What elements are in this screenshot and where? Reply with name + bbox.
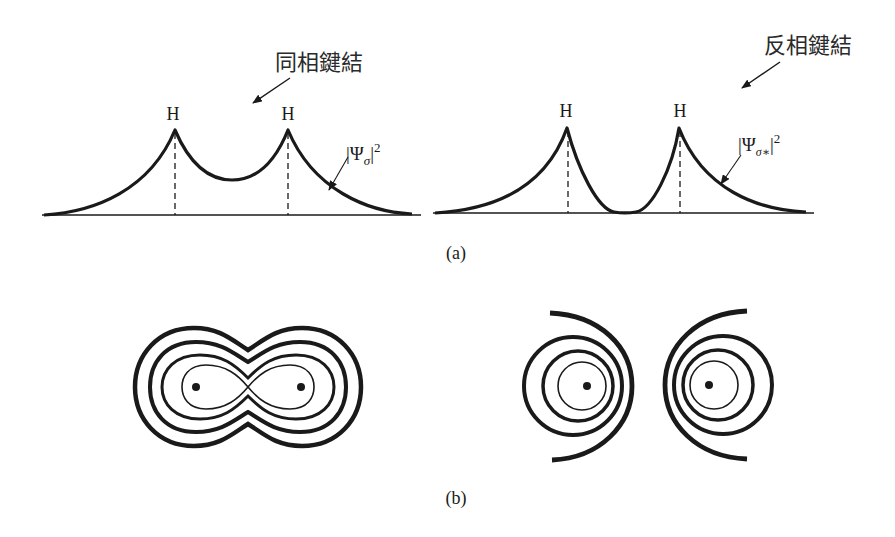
anti-nucleus-dot-left bbox=[583, 382, 591, 390]
caption-b: (b) bbox=[446, 488, 467, 509]
anti-nucleus-dot-right bbox=[705, 381, 713, 389]
antibonding-title: 反相鍵結 bbox=[764, 33, 852, 58]
anti-left-outer-arc bbox=[550, 313, 632, 460]
bonding-title-arrow bbox=[253, 78, 290, 103]
antibonding-label-arrow bbox=[721, 155, 741, 184]
anti-atom-label-h-right: H bbox=[674, 101, 687, 121]
anti-left-contour-2 bbox=[543, 351, 613, 421]
bonding-density-label: |Ψσ|2 bbox=[346, 140, 381, 168]
nucleus-dot-right bbox=[297, 383, 305, 391]
atom-label-h-right: H bbox=[282, 104, 295, 124]
atom-label-h-left: H bbox=[167, 104, 180, 124]
bonding-contour-map bbox=[135, 328, 361, 446]
bonding-density-plot: H H 同相鍵結 |Ψσ|2 bbox=[42, 50, 421, 215]
bonding-title: 同相鍵結 bbox=[275, 50, 363, 75]
anti-right-contour-1 bbox=[690, 361, 738, 409]
bonding-label-arrow bbox=[329, 157, 348, 190]
caption-a: (a) bbox=[446, 243, 466, 264]
anti-right-contour-2 bbox=[683, 350, 753, 420]
orbital-diagram: H H 同相鍵結 |Ψσ|2 H H 反相鍵結 |Ψσ∗|2 (a) bbox=[0, 0, 895, 537]
anti-atom-label-h-left: H bbox=[560, 101, 573, 121]
anti-left-contour-1 bbox=[558, 362, 606, 410]
antibonding-density-plot: H H 反相鍵結 |Ψσ∗|2 bbox=[433, 33, 852, 213]
bonding-contour-1 bbox=[182, 365, 314, 409]
antibonding-contour-map bbox=[524, 311, 772, 460]
antibonding-density-label: |Ψσ∗|2 bbox=[738, 131, 780, 159]
svg-text:|Ψσ|2: |Ψσ|2 bbox=[346, 140, 381, 168]
svg-text:|Ψσ∗|2: |Ψσ∗|2 bbox=[738, 131, 780, 159]
antibonding-title-arrow bbox=[742, 62, 780, 88]
nucleus-dot-left bbox=[192, 383, 200, 391]
